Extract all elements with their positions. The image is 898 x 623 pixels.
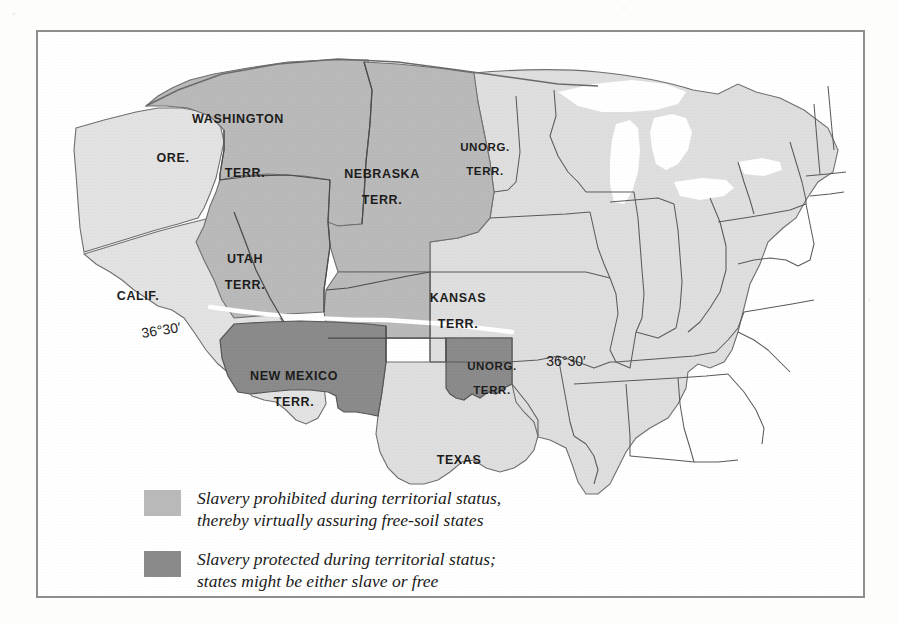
legend-free-soil-line2: thereby virtually assuring free-soil sta… — [197, 509, 501, 531]
page-canvas: WASHINGTON TERR. ORE. CALIF. UTAH TERR. … — [0, 0, 898, 623]
legend-item-slavery-protected: Slavery protected during territorial sta… — [144, 548, 664, 593]
legend-slavery-protected-line1: Slavery protected during territorial sta… — [197, 549, 496, 569]
map-frame: WASHINGTON TERR. ORE. CALIF. UTAH TERR. … — [36, 30, 865, 598]
legend-slavery-protected-line2: states might be either slave or free — [197, 570, 496, 592]
map-legend: Slavery prohibited during territorial st… — [144, 487, 664, 598]
legend-swatch-free-soil — [144, 490, 181, 516]
legend-item-free-soil: Slavery prohibited during territorial st… — [144, 487, 664, 532]
legend-free-soil-line1: Slavery prohibited during territorial st… — [197, 488, 501, 508]
legend-text-free-soil: Slavery prohibited during territorial st… — [197, 487, 501, 532]
legend-swatch-slavery-protected — [144, 551, 181, 577]
legend-text-slavery-protected: Slavery protected during territorial sta… — [197, 548, 496, 593]
